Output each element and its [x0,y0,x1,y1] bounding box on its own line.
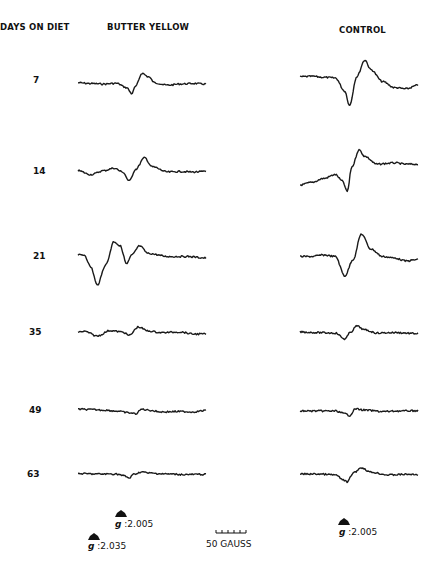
trace-control-day-63 [300,468,418,483]
esr-spectra-plot [0,0,442,562]
g-marker-icon [115,510,127,517]
g-value: 2.005 [127,519,153,529]
g-value: 2.035 [100,541,126,551]
trace-butter-yellow-day-35 [78,326,206,336]
trace-control-day-21 [300,234,418,276]
trace-butter-yellow-day-49 [78,409,206,415]
trace-butter-yellow-day-63 [78,472,206,478]
scale-bar [216,530,246,533]
g-marker-icon [338,518,350,525]
scale-bar-label: 50 GAUSS [206,539,251,549]
g-marker-label: g :2.035 [88,541,126,551]
trace-butter-yellow-day-21 [78,242,206,285]
g-symbol: g [88,541,94,551]
g-marker-label: g :2.005 [339,527,377,537]
g-marker-label: g :2.005 [115,519,153,529]
trace-control-day-14 [300,150,418,192]
trace-butter-yellow-day-7 [78,73,206,94]
trace-control-day-49 [300,408,418,416]
trace-butter-yellow-day-14 [78,157,206,180]
g-marker-icon [88,533,100,540]
trace-control-day-7 [300,61,418,106]
trace-control-day-35 [300,326,418,340]
g-symbol: g [339,527,345,537]
g-value: 2.005 [351,527,377,537]
g-symbol: g [115,519,121,529]
